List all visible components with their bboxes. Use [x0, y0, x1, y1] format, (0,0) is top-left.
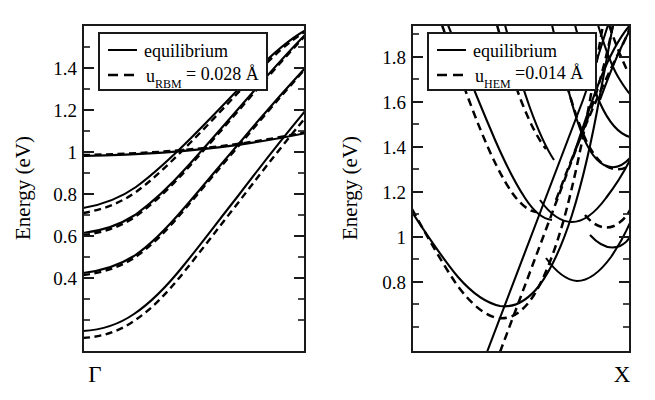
left-legend-label-value: = 0.028 Å — [186, 64, 259, 84]
left-legend-label-subscript: RBM — [155, 77, 182, 91]
right-legend-label-subscript: HEM — [484, 77, 511, 91]
right-legend-label-equilibrium: equilibrium — [473, 41, 557, 61]
right-legend-label-u: u — [475, 66, 484, 86]
left-legend: equilibrium u RBM = 0.028 Å — [99, 33, 267, 91]
right-ytick-label: 1.6 — [382, 92, 406, 113]
band-structure-figure: 1.4 1.2 1 0.8 0.6 0.4 Energy (eV) Γ equi… — [0, 0, 655, 400]
right-ytick-label: 1.2 — [382, 182, 406, 203]
figure-canvas: 1.4 1.2 1 0.8 0.6 0.4 Energy (eV) Γ equi… — [0, 0, 655, 400]
left-xaxis-label-gamma: Γ — [88, 362, 101, 387]
right-yaxis-title: Energy (eV) — [338, 136, 362, 240]
right-xaxis-label-x: X — [614, 362, 631, 387]
left-ytick-label: 0.4 — [53, 268, 77, 289]
right-legend-label-value: =0.014 Å — [515, 63, 583, 83]
left-legend-label-equilibrium: equilibrium — [144, 41, 228, 61]
right-ytick-label: 0.8 — [382, 272, 406, 293]
left-ytick-label: 0.8 — [53, 184, 77, 205]
left-yaxis-title: Energy (eV) — [11, 136, 35, 240]
left-legend-label-u: u — [146, 66, 155, 86]
right-legend: equilibrium u HEM =0.014 Å — [428, 33, 596, 91]
left-ytick-label: 1 — [68, 142, 78, 163]
left-ytick-label: 0.6 — [53, 226, 77, 247]
right-ytick-label: 1 — [397, 227, 407, 248]
right-ytick-label: 1.8 — [382, 47, 406, 68]
left-ytick-label: 1.4 — [53, 58, 77, 79]
left-ytick-label: 1.2 — [53, 100, 77, 121]
right-ytick-label: 1.4 — [382, 137, 406, 158]
